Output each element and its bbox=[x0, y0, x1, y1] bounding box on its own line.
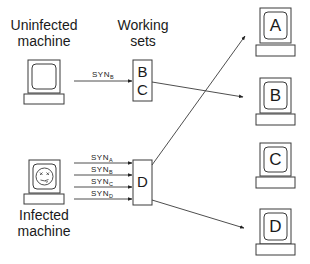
target-computer-c: C bbox=[256, 143, 295, 188]
infected-machine-label: Infected machine bbox=[18, 207, 71, 239]
infected-label-line2: machine bbox=[18, 223, 71, 239]
working-label-line1: Working bbox=[117, 17, 168, 33]
target-label: D bbox=[269, 217, 281, 236]
syn-label: SYN bbox=[91, 165, 109, 174]
syn-label: SYN bbox=[91, 177, 109, 186]
working-set-entry: D bbox=[137, 173, 148, 190]
syn-subscript: D bbox=[109, 193, 113, 199]
working-set-box-upper: B C bbox=[133, 60, 152, 101]
working-set-box-lower: D bbox=[133, 160, 152, 205]
arrow-to-target-a bbox=[152, 36, 245, 165]
svg-text:SYNB: SYNB bbox=[91, 165, 113, 175]
target-label: A bbox=[270, 16, 282, 35]
working-label-line2: sets bbox=[130, 33, 156, 49]
arrow-to-target-d bbox=[152, 200, 244, 228]
svg-text:SYNB: SYNB bbox=[92, 70, 114, 80]
working-set-entry: B bbox=[137, 63, 147, 80]
target-label: C bbox=[269, 150, 281, 169]
syn-subscript: C bbox=[109, 181, 113, 187]
svg-text:SYNA: SYNA bbox=[91, 153, 113, 163]
diagram-canvas: Uninfected machine Working sets SYNB B C bbox=[0, 0, 310, 264]
target-computer-b: B bbox=[256, 78, 295, 125]
infected-computer-icon bbox=[24, 160, 64, 204]
uninfected-syn-arrow: SYNB bbox=[74, 70, 132, 81]
uninfected-label-line1: Uninfected bbox=[11, 17, 78, 33]
uninfected-machine-label: Uninfected machine bbox=[11, 17, 78, 49]
syn-subscript: B bbox=[109, 169, 113, 175]
syn-label: SYN bbox=[92, 70, 110, 79]
svg-text:SYNC: SYNC bbox=[91, 177, 113, 187]
outgoing-arrows bbox=[152, 36, 245, 228]
uninfected-computer-icon bbox=[24, 60, 64, 104]
working-sets-label: Working sets bbox=[117, 17, 168, 49]
arrow-to-target-b bbox=[152, 82, 243, 97]
target-computer-a: A bbox=[256, 8, 295, 56]
syn-subscript: A bbox=[109, 157, 113, 163]
working-set-entry: C bbox=[137, 81, 148, 98]
infected-label-line1: Infected bbox=[19, 207, 69, 223]
target-computer-d: D bbox=[256, 209, 295, 255]
infected-syn-arrows: SYNA SYNB SYNC SYND bbox=[74, 153, 132, 199]
syn-subscript: B bbox=[110, 74, 114, 80]
uninfected-label-line2: machine bbox=[18, 33, 71, 49]
target-label: B bbox=[270, 86, 281, 105]
syn-label: SYN bbox=[91, 189, 109, 198]
syn-label: SYN bbox=[91, 153, 109, 162]
svg-text:SYND: SYND bbox=[91, 189, 113, 199]
